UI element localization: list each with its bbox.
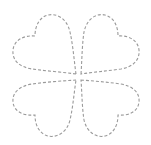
bottom-left-heart <box>13 80 76 136</box>
bottom-right-heart <box>81 80 139 136</box>
top-left-heart <box>13 15 76 74</box>
clover-icon <box>0 0 151 145</box>
top-right-heart <box>81 15 139 74</box>
clover-figure <box>0 0 151 145</box>
